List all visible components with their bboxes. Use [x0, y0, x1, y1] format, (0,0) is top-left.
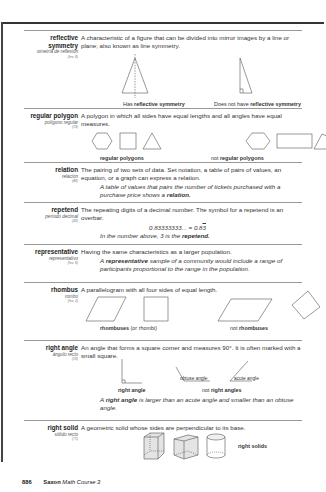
caption-not-right-angles: not right angles — [202, 387, 242, 393]
glossary-entry-reflective-symmetry: reflective symmetry simetría de reflexió… — [24, 30, 302, 109]
entry-example: A representative sample of a community w… — [100, 257, 290, 273]
caption-not-rhombuses: not rhombuses — [230, 325, 268, 331]
entry-term: representative representativo (Inv. 8) — [24, 248, 78, 266]
entry-term: repetend período decimal (30) — [24, 206, 78, 224]
entry-term: relation relación (48) — [24, 166, 78, 184]
angle-figures — [120, 359, 300, 385]
entry-term: reflective symmetry simetría de reflexió… — [24, 34, 78, 59]
book-title-bold: Saxon — [43, 479, 60, 485]
glossary-entry-relation: relation relación (48) The pairing of tw… — [24, 162, 302, 203]
glossary-entry-representative: representative representativo (Inv. 8) H… — [24, 244, 302, 283]
caption-right-solids: right solids — [238, 443, 267, 449]
term-english: regular polygon — [24, 112, 78, 120]
term-reference: (18) — [24, 357, 78, 362]
term-reference: (48) — [24, 179, 78, 184]
glossary-entry-repetend: repetend período decimal (30) The repeat… — [24, 202, 302, 243]
term-reference: (71) — [24, 437, 78, 442]
entry-definition: A characteristic of a figure that can be… — [81, 34, 303, 50]
page-frame-left — [1, 22, 3, 462]
page-footer: 886 Saxon Math Course 3 — [22, 479, 100, 485]
entry-term: right solid sólido recto (71) — [24, 424, 78, 442]
glossary-entry-regular-polygon: regular polygon polígono regular (19) A … — [24, 108, 302, 163]
caption-right-angle: right angle — [118, 387, 146, 393]
caption-not-regular-polygons: not regular polygons — [211, 155, 264, 161]
term-english: right solid — [24, 424, 78, 432]
page-frame-top — [1, 22, 324, 24]
right-solids-figures — [142, 433, 252, 463]
entry-definition: The repeating digits of a decimal number… — [81, 206, 303, 222]
entry-definition: An angle that forms a square corner and … — [81, 344, 303, 360]
entry-example: In the number above, 3 is the repetend. — [100, 232, 210, 240]
term-english: relation — [24, 166, 78, 174]
term-reference: (Inv. 8) — [24, 261, 78, 266]
term-reference: (Inv. 2) — [24, 299, 78, 304]
page-number: 886 — [22, 479, 32, 485]
glossary-entry-right-solid: right solid sólido recto (71) A geometri… — [24, 420, 302, 461]
term-english: representative — [24, 248, 78, 256]
entry-example: A table of values that pairs the number … — [100, 183, 290, 199]
glossary-entry-rhombus: rhombus rombo (Inv. 2) A parallelogram w… — [24, 282, 302, 333]
term-reference: (Inv. 8) — [24, 55, 78, 60]
book-title-italic: Math Course 3 — [62, 479, 100, 485]
polygon-figures — [88, 131, 318, 153]
caption-obtuse-angle: obtuse angle — [180, 376, 207, 381]
entry-definition: A polygon in which all sides have equal … — [81, 112, 303, 128]
entry-definition: A parallelogram with all four sides of e… — [81, 286, 303, 294]
caption-has-symmetry: Has reflective symmetry — [123, 101, 185, 107]
entry-definition: A geometric solid whose sides are perpen… — [81, 424, 303, 432]
term-english: reflective — [24, 34, 78, 42]
entry-example: A right angle is larger than an acute an… — [100, 396, 300, 412]
glossary-entry-right-angle: right angle ángulo recto (18) An angle t… — [24, 340, 302, 413]
rhombus-figures — [86, 295, 326, 325]
caption-regular-polygons: regular polygons — [100, 155, 144, 161]
repetend-equation: 0.83333333... = 0.83 — [149, 224, 206, 232]
entry-definition: Having the same characteristics as a lar… — [81, 248, 303, 256]
entry-term: right angle ángulo recto (18) — [24, 344, 78, 362]
entry-term: regular polygon polígono regular (19) — [24, 112, 78, 130]
term-english: rhombus — [24, 286, 78, 294]
term-english-line2: symmetry — [24, 42, 78, 50]
term-english: right angle — [24, 344, 78, 352]
right-triangle-figure — [238, 56, 268, 106]
term-english: repetend — [24, 206, 78, 214]
term-reference: (30) — [24, 219, 78, 224]
caption-no-symmetry: Does not have reflective symmetry — [214, 101, 301, 107]
isosceles-triangle-figure — [120, 56, 170, 106]
caption-rhombuses: rhombuses (or rhombi) — [100, 325, 157, 331]
caption-acute-angle: acute angle — [234, 376, 259, 381]
term-reference: (19) — [24, 125, 78, 130]
entry-definition: The pairing of two sets of data. Set not… — [81, 166, 303, 182]
entry-term: rhombus rombo (Inv. 2) — [24, 286, 78, 304]
